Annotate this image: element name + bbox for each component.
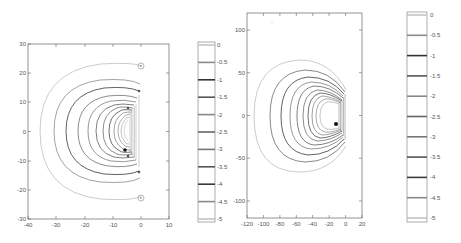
y-tick-label: -100	[233, 198, 246, 204]
x-tick-label: -100	[257, 221, 270, 227]
colorbar-tick-label: -5	[217, 216, 223, 222]
colorbar-tick-label: -2.5	[217, 129, 228, 135]
y-tick-label: -50	[236, 155, 245, 161]
colorbar-tick-label: -1	[217, 77, 223, 83]
right-colorbar: 0 -0.5 -1 -1.5 -2 -2.5 -3 -3.5 -4 -4.5 -…	[407, 12, 441, 222]
x-tick-label: -20	[325, 221, 334, 227]
colorbar-tick-label: -1.5	[217, 94, 228, 100]
colorbar-tick-label: -1	[430, 53, 436, 59]
right-contour-plot: -120 -100 -80 -60 -40 -20 0 20 100 50 0 …	[233, 13, 366, 227]
right-contours	[254, 60, 346, 172]
y-tick-label: 30	[19, 41, 26, 47]
point-marker	[140, 197, 142, 199]
right-y-tick-labels: 100 50 0 -50 -100	[233, 27, 246, 204]
right-colorbar-tick-labels: 0 -0.5 -1 -1.5 -2 -2.5 -3 -3.5 -4 -4.5 -…	[430, 12, 441, 221]
filled-point-marker	[334, 122, 338, 126]
colorbar-tick-label: -4.5	[217, 199, 228, 205]
x-tick-label: -30	[52, 222, 61, 228]
point-marker	[140, 65, 142, 67]
colorbar-tick-label: -3.5	[217, 164, 228, 170]
y-tick-label: -20	[17, 187, 26, 193]
filled-point-marker	[123, 148, 127, 152]
colorbar-tick-label: -4	[217, 181, 223, 187]
colorbar-tick-label: 0	[217, 42, 221, 48]
colorbar-tick-label: -5	[430, 215, 436, 221]
colorbar-tick-label: -2	[430, 93, 436, 99]
colorbar-tick-label: -2.5	[430, 114, 441, 120]
figure: -40 -30 -20 -10 0 10 30 20 10 0 -10 -20 …	[0, 0, 461, 243]
left-x-tick-labels: -40 -30 -20 -10 0 10	[24, 222, 173, 228]
y-tick-label: 0	[23, 129, 27, 135]
colorbar-tick-label: -1.5	[430, 73, 441, 79]
x-tick-label: 10	[166, 222, 173, 228]
y-tick-label: 0	[242, 113, 246, 119]
point-marker	[127, 107, 130, 110]
colorbar-tick-label: -3	[430, 134, 436, 140]
x-tick-label: -40	[308, 221, 317, 227]
y-tick-label: 100	[235, 27, 246, 33]
left-plot-frame	[28, 44, 169, 219]
x-tick-label: -10	[109, 222, 118, 228]
x-tick-label: -40	[24, 222, 33, 228]
y-tick-label: -30	[17, 216, 26, 222]
stray-point	[272, 22, 273, 23]
point-marker	[138, 171, 141, 174]
left-colorbar: 0 -0.5 -1 -1.5 -2 -2.5 -3 -3.5 -4 -4.5 -…	[198, 42, 228, 222]
colorbar-tick-label: -3	[217, 146, 223, 152]
x-tick-label: -60	[292, 221, 301, 227]
point-marker	[127, 155, 130, 158]
y-tick-label: 50	[238, 70, 245, 76]
colorbar-tick-label: -0.5	[217, 59, 228, 65]
left-y-tick-labels: 30 20 10 0 -10 -20 -30	[17, 41, 26, 222]
colorbar-tick-label: 0	[430, 12, 434, 18]
colorbar-tick-label: -2	[217, 112, 223, 118]
left-contour-plot: -40 -30 -20 -10 0 10 30 20 10 0 -10 -20 …	[17, 41, 173, 228]
x-tick-label: 20	[359, 221, 366, 227]
x-tick-label: -80	[276, 221, 285, 227]
y-tick-label: 20	[19, 70, 26, 76]
colorbar-tick-label: -0.5	[430, 32, 441, 38]
left-colorbar-tick-labels: 0 -0.5 -1 -1.5 -2 -2.5 -3 -3.5 -4 -4.5 -…	[217, 42, 228, 222]
colorbar-tick-label: -4.5	[430, 195, 441, 201]
left-contours	[40, 63, 141, 199]
colorbar-tick-label: -3.5	[430, 154, 441, 160]
x-tick-label: -120	[241, 221, 254, 227]
x-tick-label: 0	[344, 221, 348, 227]
x-tick-label: -20	[81, 222, 90, 228]
x-tick-label: 0	[139, 222, 143, 228]
left-axis-ticks	[28, 44, 169, 219]
colorbar-tick-label: -4	[430, 174, 436, 180]
y-tick-label: 10	[19, 99, 26, 105]
point-marker	[138, 90, 141, 93]
y-tick-label: -10	[17, 158, 26, 164]
right-x-tick-labels: -120 -100 -80 -60 -40 -20 0 20	[241, 221, 366, 227]
